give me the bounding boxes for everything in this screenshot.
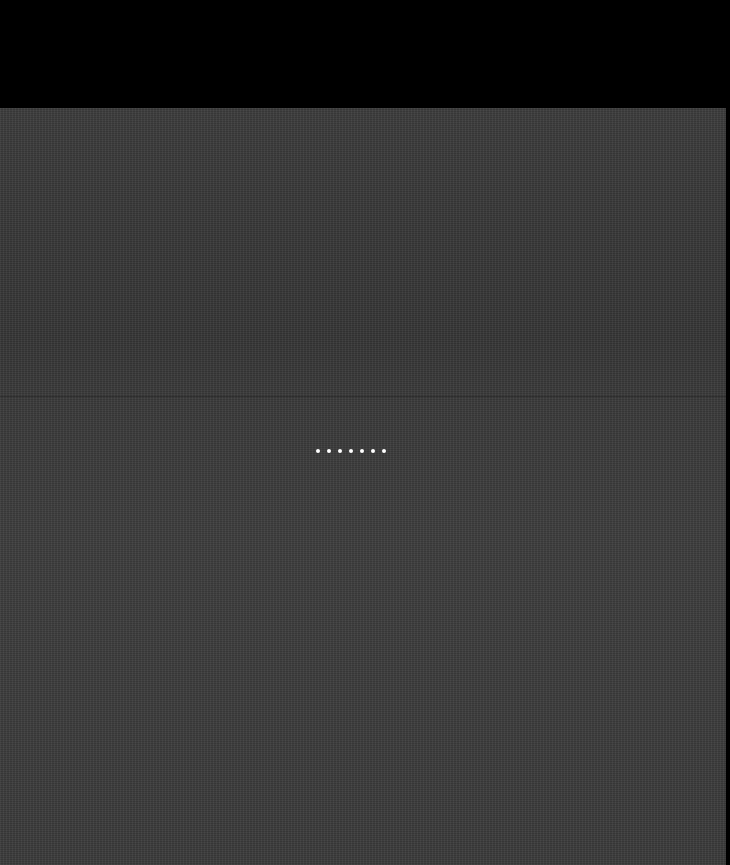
- loading-screen: [0, 108, 726, 865]
- background-texture: [0, 108, 726, 865]
- loading-dot-icon: [316, 449, 320, 453]
- loading-indicator: [316, 449, 386, 453]
- background-seam: [0, 396, 726, 397]
- top-black-band: [0, 0, 730, 108]
- loading-dot-icon: [327, 449, 331, 453]
- loading-dot-icon: [338, 449, 342, 453]
- loading-dot-icon: [360, 449, 364, 453]
- loading-dot-icon: [349, 449, 353, 453]
- loading-dot-icon: [371, 449, 375, 453]
- loading-dot-icon: [382, 449, 386, 453]
